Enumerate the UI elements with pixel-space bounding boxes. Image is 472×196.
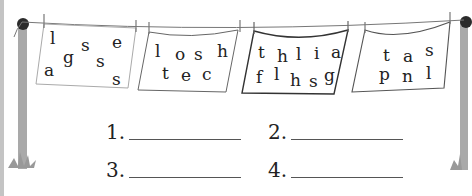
cloth-1-letter: s <box>112 71 121 88</box>
answer-1-number: 1. <box>106 122 125 142</box>
cloth-1-letter: g <box>63 49 74 66</box>
cloth-1-letter: s <box>96 53 105 70</box>
grass-right-icon <box>450 154 462 170</box>
answer-3-blank[interactable] <box>129 177 241 178</box>
answer-4-blank[interactable] <box>291 177 403 178</box>
cloth-3-letter: g <box>324 67 335 84</box>
cloth-4-letter: t <box>383 47 390 64</box>
cloth-2-letter: t <box>162 65 169 82</box>
cloth-3-letter: h <box>290 72 301 89</box>
answer-4-number: 4. <box>268 160 287 180</box>
cloth-3-letter: l <box>296 46 301 63</box>
answer-2-blank[interactable] <box>291 139 403 140</box>
cloth-3-letter: t <box>258 44 265 61</box>
cloth-4-letter: s <box>425 42 434 59</box>
cloth-2-letter: l <box>155 43 160 60</box>
cloth-3-letter: f <box>256 69 262 86</box>
cloth-1-letter: s <box>81 37 90 54</box>
cloth-4-letter: p <box>379 66 390 83</box>
cloth-3-letter: a <box>331 44 341 61</box>
cloth-2-letter: o <box>175 46 185 63</box>
cloth-1-letter: l <box>50 30 55 47</box>
cloth-1-letter: a <box>44 62 54 79</box>
cloth-4-letter: n <box>402 68 413 85</box>
cloth-2-letter: s <box>194 46 203 63</box>
cloth-4-letter: l <box>426 65 431 82</box>
answer-2-number: 2. <box>268 122 287 142</box>
cloth-2-letter: h <box>217 43 228 60</box>
cloth-4 <box>352 22 450 92</box>
grass-left-icon <box>8 152 36 168</box>
line-tie <box>14 22 22 37</box>
answer-3-number: 3. <box>106 160 125 180</box>
cloth-4-letter: a <box>403 48 413 65</box>
cloth-1-letter: e <box>112 34 122 51</box>
cloth-2-letter: c <box>202 66 212 83</box>
cloth-3-letter: i <box>314 45 319 62</box>
answer-1-blank[interactable] <box>129 139 241 140</box>
cloth-3-letter: s <box>309 73 318 90</box>
cloth-3-letter: h <box>277 48 288 65</box>
cloth-3-letter: l <box>274 66 279 83</box>
cloth-2-letter: e <box>181 67 191 84</box>
